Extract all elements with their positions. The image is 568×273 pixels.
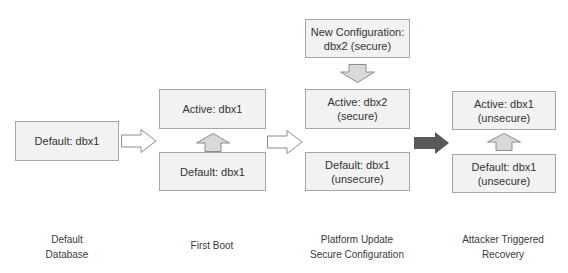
caption-line1: Attacker Triggered	[462, 232, 544, 247]
attack-arrow-icon	[414, 132, 449, 154]
caption-line2: Recovery	[462, 247, 544, 262]
box-text-line1: Active: dbx1	[474, 97, 534, 111]
stage4-default-box: Default: dbx1 (unsecure)	[452, 154, 556, 193]
box-text: Active: dbx1	[183, 102, 243, 116]
right-arrow-icon	[121, 129, 157, 153]
box-text-line1: Default: dbx1	[325, 158, 390, 172]
up-arrow-icon	[487, 133, 521, 151]
stage1-caption: Default Database	[46, 232, 89, 262]
down-arrow-icon	[340, 64, 375, 83]
stage2-active-box: Active: dbx1	[159, 89, 266, 129]
caption-line2: Database	[46, 247, 89, 262]
right-arrow-icon	[267, 130, 303, 154]
stage3-caption: Platform Update Secure Configuration	[310, 232, 404, 262]
box-text-line2: (unsecure)	[478, 174, 531, 188]
stage1-default-box: Default: dbx1	[15, 121, 119, 161]
up-arrow-icon	[196, 133, 230, 152]
stage3-active-box: Active: dbx2 (secure)	[305, 89, 410, 129]
box-text-line2: (unsecure)	[478, 111, 531, 125]
box-text-line1: Default: dbx1	[472, 160, 537, 174]
caption-line1: Default	[46, 232, 89, 247]
stage4-caption: Attacker Triggered Recovery	[462, 232, 544, 262]
stage2-caption: First Boot	[191, 238, 234, 253]
box-text: Default: dbx1	[180, 165, 245, 179]
stage2-default-box: Default: dbx1	[159, 152, 266, 191]
stage3-new-config-box: New Configuration: dbx2 (secure)	[305, 19, 410, 58]
box-text-line2: dbx2 (secure)	[324, 39, 391, 53]
caption-line2: Secure Configuration	[310, 247, 404, 262]
box-text-line1: New Configuration:	[311, 25, 405, 39]
caption-line1: Platform Update	[310, 232, 404, 247]
box-text-line2: (secure)	[337, 109, 377, 123]
box-text-line1: Active: dbx2	[328, 95, 388, 109]
box-text: Default: dbx1	[35, 134, 100, 148]
stage3-default-box: Default: dbx1 (unsecure)	[305, 152, 410, 191]
caption-line1: First Boot	[191, 238, 234, 253]
stage4-active-box: Active: dbx1 (unsecure)	[452, 91, 556, 130]
box-text-line2: (unsecure)	[331, 172, 384, 186]
